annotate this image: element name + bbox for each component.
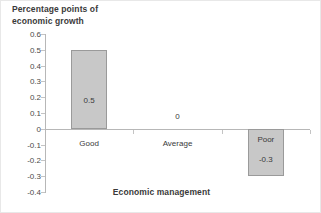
x-axis-title: Economic management bbox=[1, 187, 321, 197]
bar bbox=[71, 50, 107, 129]
x-axis-tick-mark bbox=[310, 130, 311, 134]
y-axis-tick-mark bbox=[41, 160, 45, 161]
y-axis-tick-mark bbox=[41, 50, 45, 51]
data-value-label: 0.5 bbox=[84, 96, 95, 105]
data-value-label: -0.3 bbox=[259, 155, 273, 164]
y-axis-tick-labels: 0.60.50.40.30.20.10-0.1-0.2-0.3-0.4 bbox=[13, 1, 41, 213]
y-axis-tick-mark bbox=[41, 176, 45, 177]
y-axis-tick-label: 0.2 bbox=[15, 93, 41, 102]
x-axis-tick-mark bbox=[222, 130, 223, 134]
y-axis-tick-mark bbox=[41, 97, 45, 98]
y-axis-tick-mark bbox=[41, 34, 45, 35]
y-axis-tick-label: 0.1 bbox=[15, 109, 41, 118]
y-axis-tick-mark bbox=[41, 145, 45, 146]
y-axis-tick-label: -0.2 bbox=[15, 156, 41, 165]
category-label: Average bbox=[163, 139, 193, 148]
y-axis-tick-label: -0.1 bbox=[15, 140, 41, 149]
y-axis-tick-label: 0.5 bbox=[15, 45, 41, 54]
y-axis-tick-label: 0.6 bbox=[15, 30, 41, 39]
y-axis-tick-label: 0.3 bbox=[15, 77, 41, 86]
y-axis-line bbox=[45, 34, 46, 193]
x-axis-tick-mark bbox=[133, 130, 134, 134]
bar-chart: Percentage points of economic growth 0.6… bbox=[0, 0, 321, 213]
y-axis-tick-mark bbox=[41, 66, 45, 67]
category-label: Good bbox=[79, 139, 99, 148]
y-axis-tick-label: -0.3 bbox=[15, 172, 41, 181]
y-axis-tick-label: 0.4 bbox=[15, 61, 41, 70]
data-value-label: 0 bbox=[175, 112, 179, 121]
y-axis-tick-mark bbox=[41, 81, 45, 82]
y-axis-tick-mark bbox=[41, 113, 45, 114]
y-axis-tick-mark bbox=[41, 129, 45, 130]
y-axis-tick-label: 0 bbox=[15, 124, 41, 133]
category-label: Poor bbox=[257, 135, 274, 144]
